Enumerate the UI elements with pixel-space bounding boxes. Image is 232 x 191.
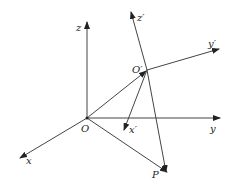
vector-oprime-to-p (147, 70, 166, 172)
label-p: P (151, 169, 159, 180)
label-x: x (26, 155, 32, 166)
y-prime-axis (147, 49, 219, 70)
coordinate-diagram: z O x y O′ z′ y′ x′ P (0, 0, 232, 191)
label-x-prime: x′ (129, 124, 138, 135)
label-z: z (75, 22, 82, 33)
label-z-prime: z′ (136, 12, 145, 23)
x-axis (20, 118, 87, 158)
label-o-prime: O′ (132, 64, 143, 75)
label-y: y (209, 123, 216, 134)
label-o: O (81, 123, 89, 134)
vector-o-to-p (87, 118, 167, 172)
label-y-prime: y′ (207, 38, 217, 49)
origin-point (86, 117, 89, 120)
